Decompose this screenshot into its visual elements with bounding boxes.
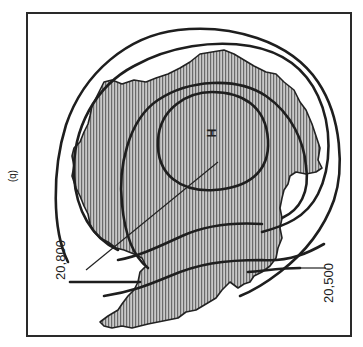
- contour-map-figure: H 20,800 20,500 (b): [0, 0, 363, 347]
- contour-label-20500: 20,500: [321, 263, 336, 303]
- high-pressure-marker: H: [204, 129, 218, 138]
- contour-label-20800: 20,800: [53, 240, 68, 280]
- panel-label: (b): [8, 170, 19, 182]
